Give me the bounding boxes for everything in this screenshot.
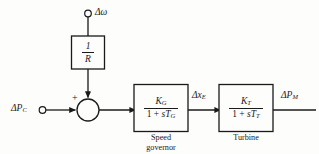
turbine-output-label: ΔPM <box>281 91 298 101</box>
turbine-transfer-function: KT 1 + sTT <box>219 85 273 132</box>
summing-junction-minus-sign: − <box>85 87 91 97</box>
block-diagram: Δω 1 R ΔPC + − KG 1 + sTG Speed governor… <box>0 0 319 154</box>
speed-input-terminal <box>85 10 92 17</box>
speed-governor-numerator: KG <box>152 96 169 107</box>
feedback-block-transfer-function: 1 R <box>72 36 105 69</box>
speed-governor-caption-line1: Speed <box>126 133 196 143</box>
speed-governor-caption: Speed governor <box>126 133 196 154</box>
speed-governor-denominator: 1 + sTG <box>144 108 179 120</box>
command-input-label: ΔPC <box>11 104 27 114</box>
summing-junction <box>77 99 99 121</box>
feedback-numerator: 1 <box>83 41 94 52</box>
speed-input-label: Δω <box>95 8 107 18</box>
speed-governor-caption-line2: governor <box>126 143 196 153</box>
feedback-denominator: R <box>82 52 94 64</box>
turbine-denominator: 1 + sTT <box>229 108 263 120</box>
governor-output-label-subscript: E <box>202 93 206 100</box>
command-input-terminal <box>39 107 46 114</box>
turbine-caption: Turbine <box>211 133 281 143</box>
command-input-label-subscript: C <box>22 106 26 113</box>
turbine-output-label-subscript: M <box>292 93 298 100</box>
turbine-numerator: KT <box>238 96 254 107</box>
summing-junction-plus-sign: + <box>72 93 78 103</box>
speed-governor-transfer-function: KG 1 + sTG <box>134 85 188 132</box>
governor-output-label: ΔxE <box>192 91 206 101</box>
turbine-caption-line1: Turbine <box>211 133 281 143</box>
